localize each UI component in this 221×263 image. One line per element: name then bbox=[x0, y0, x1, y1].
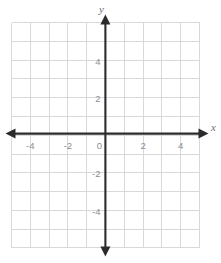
y-tick-label: 4 bbox=[95, 56, 100, 67]
x-tick-label: 2 bbox=[140, 140, 145, 151]
y-tick-labels: 4 2 -2 -4 bbox=[92, 56, 100, 217]
y-tick-label: -2 bbox=[92, 168, 100, 179]
y-axis-up-arrow-icon bbox=[100, 15, 110, 25]
x-axis-left-arrow-icon bbox=[6, 129, 16, 139]
y-axis-down-arrow-icon bbox=[100, 247, 110, 257]
x-tick-label: -2 bbox=[64, 140, 72, 151]
x-axis-label: x bbox=[210, 121, 216, 133]
x-tick-label: -4 bbox=[26, 140, 34, 151]
origin-label: 0 bbox=[97, 140, 102, 151]
x-tick-label: 4 bbox=[178, 140, 183, 151]
x-axis-right-arrow-icon bbox=[199, 129, 209, 139]
coordinate-plane-canvas: -4 -2 0 2 4 4 2 -2 -4 x y bbox=[0, 0, 221, 263]
x-axis bbox=[6, 129, 209, 139]
coordinate-plane-figure: -4 -2 0 2 4 4 2 -2 -4 x y bbox=[0, 0, 221, 263]
y-tick-label: 2 bbox=[95, 93, 100, 104]
y-tick-label: -4 bbox=[92, 206, 100, 217]
y-axis-label: y bbox=[98, 3, 104, 15]
